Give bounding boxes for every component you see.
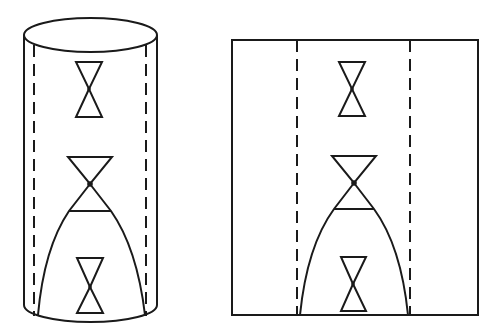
unrolled-strip-panel	[232, 40, 478, 315]
light-cone-vertex-upper	[350, 87, 354, 91]
horizon-curve-right	[354, 183, 408, 315]
horizon-curve	[300, 183, 354, 315]
spacetime-diagram-figure	[0, 0, 496, 335]
horizon-curve	[38, 184, 90, 315]
cylinder-panel	[24, 18, 157, 322]
horizon-curve-right	[90, 184, 145, 315]
cylinder-top-ellipse	[24, 18, 157, 52]
light-cone-vertex-lower	[88, 285, 92, 289]
light-cone-vertex-upper	[87, 87, 91, 91]
light-cone-vertex-lower	[351, 282, 355, 286]
